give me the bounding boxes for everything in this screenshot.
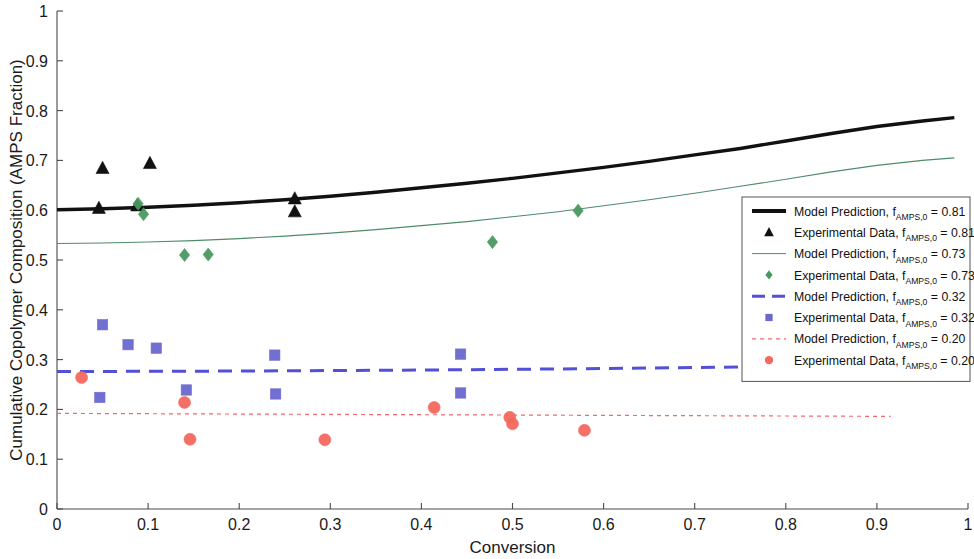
x-axis-tick-label: 0.7 — [684, 516, 706, 533]
data-point-square — [270, 350, 280, 360]
x-axis-tick-label: 0.4 — [410, 516, 432, 533]
x-axis-tick-label: 0.1 — [137, 516, 159, 533]
y-axis-tick-label: 0.4 — [26, 302, 48, 319]
data-point-square — [123, 339, 133, 349]
data-point-circle — [507, 418, 519, 430]
x-axis-tick-label: 0.3 — [319, 516, 341, 533]
y-axis-tick-label: 0.9 — [26, 53, 48, 70]
data-point-circle — [428, 401, 440, 413]
series-7 — [76, 372, 591, 446]
data-point-square — [97, 320, 107, 330]
data-point-square — [270, 389, 280, 399]
x-axis-tick-label: 0.6 — [592, 516, 614, 533]
data-point-diamond — [487, 235, 497, 248]
x-axis-tick-label: 0.2 — [228, 516, 250, 533]
data-point-square — [181, 385, 191, 395]
y-axis-tick-label: 0.1 — [26, 451, 48, 468]
x-axis-tick-label: 0.9 — [866, 516, 888, 533]
chart-legend: Model Prediction, fAMPS,0 = 0.81Experime… — [742, 197, 974, 381]
chart-figure: 00.10.20.30.40.50.60.70.80.9100.10.20.30… — [0, 0, 974, 559]
legend-square-marker-icon — [765, 314, 772, 321]
y-axis-tick-label: 0.6 — [26, 202, 48, 219]
data-point-diamond — [179, 248, 189, 261]
data-point-square — [455, 388, 465, 398]
series-0 — [57, 118, 954, 210]
y-axis-tick-label: 0.5 — [26, 252, 48, 269]
x-axis-tick-label: 0.8 — [775, 516, 797, 533]
y-axis-tick-label: 1 — [39, 3, 48, 20]
y-axis-tick-label: 0.8 — [26, 103, 48, 120]
y-axis-tick-label: 0.2 — [26, 401, 48, 418]
data-point-diamond — [203, 248, 213, 261]
legend-circle-marker-icon — [765, 356, 773, 364]
y-axis-title: Cumulative Copolymer Composition (AMPS F… — [7, 59, 26, 461]
model-prediction-line — [57, 118, 954, 210]
plot-canvas: 00.10.20.30.40.50.60.70.80.9100.10.20.30… — [0, 0, 974, 559]
data-point-triangle — [96, 161, 109, 173]
data-point-circle — [179, 396, 191, 408]
x-axis-tick-label: 0.5 — [501, 516, 523, 533]
y-axis-tick-label: 0 — [39, 501, 48, 518]
data-point-circle — [319, 434, 331, 446]
data-point-triangle — [288, 205, 301, 217]
data-point-circle — [578, 424, 590, 436]
data-point-triangle — [143, 156, 156, 168]
data-point-circle — [76, 372, 88, 384]
series-3 — [133, 197, 583, 261]
y-axis-tick-label: 0.3 — [26, 352, 48, 369]
model-prediction-line — [57, 413, 891, 416]
x-axis-tick-label: 1 — [964, 516, 973, 533]
data-point-diamond — [573, 204, 583, 217]
data-point-square — [455, 349, 465, 359]
x-axis-title: Conversion — [470, 538, 556, 557]
data-point-square — [151, 343, 161, 353]
x-axis-tick-label: 0 — [53, 516, 62, 533]
data-point-circle — [184, 433, 196, 445]
data-point-square — [95, 392, 105, 402]
y-axis-tick-label: 0.7 — [26, 152, 48, 169]
series-6 — [57, 413, 891, 416]
series-5 — [95, 320, 466, 403]
